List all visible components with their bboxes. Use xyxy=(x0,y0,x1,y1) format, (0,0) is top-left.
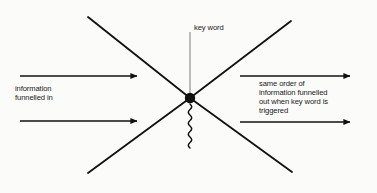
information-funnelled-out-label: same order of information funnelled out … xyxy=(259,80,328,116)
key-word-label: key word xyxy=(194,24,224,33)
diagonal-lower-left-line xyxy=(88,98,190,173)
key-word-node xyxy=(185,93,195,103)
trigger-squiggle-path xyxy=(188,104,191,148)
information-funnelled-in-label: information funnelled in xyxy=(15,85,53,103)
diagonal-upper-left-line xyxy=(88,17,190,98)
diagram-canvas: key word information funnelled in same o… xyxy=(0,0,377,193)
